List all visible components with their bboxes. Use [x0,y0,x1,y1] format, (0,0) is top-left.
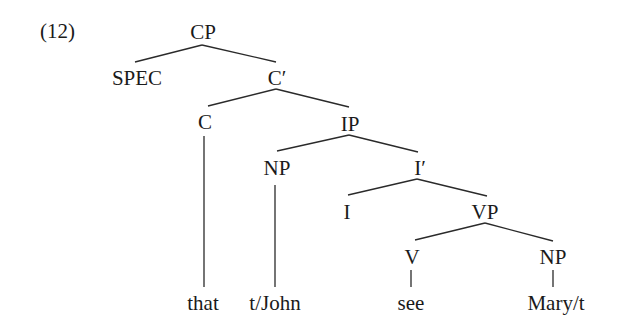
node-vp: VP [472,201,499,223]
node-v: V [404,246,419,268]
node-spec: SPEC [112,67,162,89]
leaf-that: that [187,292,219,314]
leaf-object: Mary/t [527,292,584,314]
leaf-subject: t/John [249,292,300,314]
node-c-bar: C′ [268,67,287,89]
node-np-object: NP [540,246,567,268]
node-c: C [198,111,212,133]
leaf-verb: see [398,292,425,314]
node-cp: CP [190,21,216,43]
node-i: I [344,201,351,223]
tree-edges [0,0,627,331]
node-np-subject: NP [264,157,291,179]
node-i-bar: I′ [414,157,426,179]
node-ip: IP [341,113,360,135]
